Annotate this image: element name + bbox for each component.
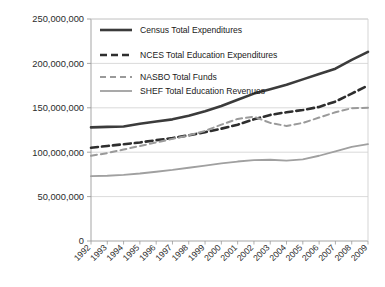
y-tick-label: 50,000,000 bbox=[37, 192, 84, 202]
legend-label-2: NASBO Total Funds bbox=[140, 72, 217, 82]
y-tick-label: 200,000,000 bbox=[32, 59, 84, 69]
y-tick-label: 100,000,000 bbox=[32, 148, 84, 158]
chart-container: 250,000,000200,000,000150,000,000100,000… bbox=[0, 0, 385, 287]
legend-label-1: NCES Total Education Expenditures bbox=[140, 50, 277, 60]
line-chart: 250,000,000200,000,000150,000,000100,000… bbox=[0, 0, 385, 287]
y-tick-label: 150,000,000 bbox=[32, 103, 84, 113]
y-tick-label: 250,000,000 bbox=[32, 14, 84, 24]
legend-label-0: Census Total Expenditures bbox=[140, 25, 242, 35]
legend-label-3: SHEF Total Education Revenues bbox=[140, 86, 265, 96]
